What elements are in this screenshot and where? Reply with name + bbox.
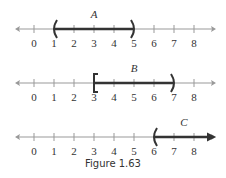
tick-label: 4 — [111, 91, 117, 103]
tick-label: 5 — [131, 145, 137, 157]
tick-label: 8 — [191, 91, 197, 103]
tick-label: 5 — [131, 91, 137, 103]
tick-label: 3 — [91, 37, 97, 49]
tick-label: 4 — [111, 37, 117, 49]
tick-label: 1 — [51, 145, 57, 157]
interval-label: A — [90, 8, 98, 20]
interval-label: C — [180, 116, 188, 128]
tick-label: 0 — [31, 91, 37, 103]
tick-label: 2 — [71, 91, 77, 103]
tick-label: 6 — [151, 91, 157, 103]
tick-label: 8 — [191, 37, 197, 49]
tick-label: 6 — [151, 145, 157, 157]
tick-label: 0 — [31, 145, 37, 157]
number-line-figure: 012345678A012345678B012345678C — [0, 0, 226, 178]
tick-label: 7 — [171, 91, 177, 103]
tick-label: 6 — [151, 37, 157, 49]
tick-label: 7 — [171, 145, 177, 157]
tick-label: 5 — [131, 37, 137, 49]
tick-label: 7 — [171, 37, 177, 49]
tick-label: 4 — [111, 145, 117, 157]
infinity-arrow-icon — [207, 133, 216, 142]
tick-label: 3 — [91, 145, 97, 157]
tick-label: 2 — [71, 145, 77, 157]
tick-label: 2 — [71, 37, 77, 49]
tick-label: 1 — [51, 37, 57, 49]
tick-label: 1 — [51, 91, 57, 103]
interval-label: B — [131, 62, 138, 74]
tick-label: 8 — [191, 145, 197, 157]
tick-label: 0 — [31, 37, 37, 49]
figure-caption: Figure 1.63 — [0, 158, 226, 169]
